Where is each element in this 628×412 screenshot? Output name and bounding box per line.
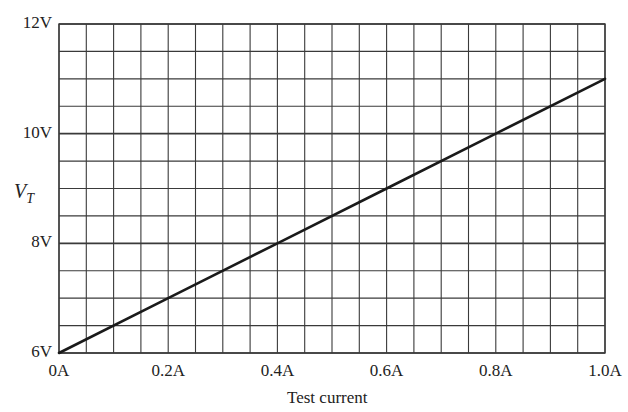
x-tick-label: 0.2A (151, 362, 185, 379)
y-axis-title-main: V (14, 180, 26, 202)
y-axis-title: VT (14, 180, 34, 207)
x-axis-title: Test current (287, 388, 367, 408)
x-tick-label: 0.4A (261, 362, 295, 379)
y-tick-label: 12V (0, 14, 52, 31)
y-tick-label: 6V (0, 343, 52, 360)
y-tick-label: 8V (0, 233, 52, 250)
grid-lines (59, 24, 605, 353)
x-tick-label: 0.8A (479, 362, 513, 379)
x-tick-label: 0.6A (370, 362, 404, 379)
y-axis-title-subscript: T (26, 191, 34, 206)
x-tick-label: 0A (49, 362, 70, 379)
y-tick-label: 10V (0, 124, 52, 141)
x-tick-label: 1.0A (588, 362, 622, 379)
line-chart (0, 0, 628, 412)
